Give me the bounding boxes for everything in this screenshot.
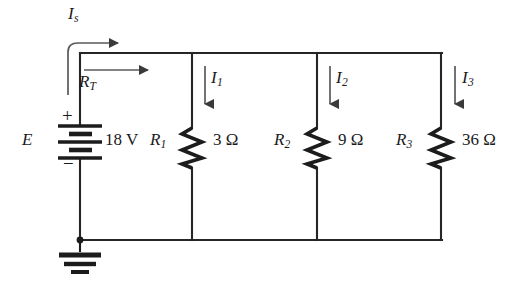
label-branch-current-i2: I2 [336,69,348,89]
label-resistor-r1-value: 3 Ω [213,131,238,148]
label-source-value: 18 V [105,131,138,148]
earth-ground-symbol [59,240,101,272]
label-resistor-r1: R1 [150,131,166,151]
label-resistor-r3: R3 [396,131,412,151]
resistor-symbol-r2 [307,128,327,168]
label-resistor-r2: R2 [274,131,290,151]
label-source-current: Is [68,5,78,25]
label-total-resistance: RT [79,73,96,93]
label-resistor-r2-value: 9 Ω [338,131,363,148]
label-branch-current-i1: I1 [211,69,223,89]
circuit-diagram-canvas: Is RT E 18 V + − R1 3 Ω R2 9 Ω R3 36 Ω I… [0,0,513,286]
resistor-symbol-r3 [431,128,451,168]
resistor-symbol-r1 [182,128,202,168]
label-branch-current-i3: I3 [462,69,474,89]
label-source-minus: − [63,154,74,173]
label-source-designator: E [22,131,32,148]
label-source-plus: + [62,106,73,125]
schematic-drawing [0,0,513,286]
label-resistor-r3-value: 36 Ω [462,131,496,148]
